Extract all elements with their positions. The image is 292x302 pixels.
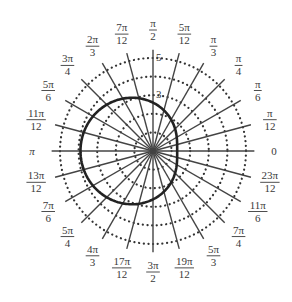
fraction-numerator: 7π [116,21,128,33]
angle-label-240: 4π3 [86,243,100,268]
fraction-denominator: 12 [179,34,190,46]
fraction-numerator: 7π [43,199,55,211]
angle-label-text: π [29,145,35,157]
fraction-numerator: 2π [87,33,99,45]
fraction-numerator: 13π [28,169,45,181]
fraction-numerator: 7π [233,224,245,236]
fraction-denominator: 4 [65,65,71,77]
fraction-denominator: 6 [255,91,261,103]
fraction-numerator: 5π [43,78,55,90]
angle-label-315: 7π4 [232,224,246,249]
fraction-numerator: 11π [250,199,267,211]
fraction-numerator: π [211,33,217,45]
fraction-numerator: 3π [147,259,159,271]
fraction-denominator: 12 [31,182,42,194]
fraction-numerator: 3π [62,52,74,64]
fraction-denominator: 12 [116,268,127,280]
fraction-numerator: 5π [62,224,74,236]
fraction-denominator: 3 [211,46,217,58]
angle-label-90: π2 [149,17,157,42]
angle-label-210: 7π6 [41,199,55,224]
angle-label-225: 5π4 [61,224,75,249]
spoke-15 [153,125,251,151]
fraction-numerator: 5π [208,243,220,255]
angle-label-75: 5π12 [178,21,192,46]
fraction-numerator: 5π [179,21,191,33]
angle-label-30: π6 [254,78,262,103]
fraction-denominator: 6 [45,212,51,224]
fraction-denominator: 12 [31,120,42,132]
spoke-75 [153,53,179,151]
spoke-195 [55,151,153,177]
spoke-345 [153,151,251,177]
fraction-denominator: 6 [255,212,261,224]
fraction-denominator: 12 [116,34,127,46]
angle-label-text: 0 [271,145,277,157]
fraction-denominator: 4 [236,65,242,77]
fraction-numerator: π [267,107,273,119]
fraction-numerator: π [236,52,242,64]
angle-label-255: 17π12 [112,255,131,280]
angle-label-180: π [29,145,35,157]
angle-label-0: 0 [271,145,277,157]
fraction-numerator: 19π [176,255,193,267]
angle-label-135: 3π4 [61,52,75,77]
angle-label-45: π4 [235,52,243,77]
angle-label-270: 3π2 [146,259,160,284]
angle-label-15: π12 [263,107,277,132]
fraction-numerator: 11π [28,107,45,119]
spoke-165 [55,125,153,151]
fraction-denominator: 3 [211,256,217,268]
radial-grid-lines [52,50,255,253]
fraction-denominator: 12 [264,120,275,132]
spoke-285 [153,151,179,249]
radial-label-3: 3 [156,88,162,100]
angle-label-60: π3 [210,33,218,58]
fraction-denominator: 2 [150,272,156,284]
fraction-denominator: 6 [45,91,51,103]
fraction-denominator: 2 [150,30,156,42]
angle-label-120: 2π3 [86,33,100,58]
angle-label-150: 5π6 [41,78,55,103]
angle-label-285: 19π12 [175,255,194,280]
angle-label-345: 23π12 [260,169,279,194]
fraction-denominator: 4 [65,237,71,249]
angle-label-105: 7π12 [115,21,129,46]
fraction-denominator: 3 [90,46,96,58]
angle-label-195: 13π12 [26,169,45,194]
fraction-numerator: 4π [87,243,99,255]
radial-tick-labels: 35 [156,51,162,100]
polar-chart: 35 0π12π6π4π35π12π27π122π33π45π611π12π13… [0,0,292,302]
angle-label-300: 5π3 [207,243,221,268]
angle-label-165: 11π12 [26,107,45,132]
fraction-denominator: 12 [179,268,190,280]
fraction-numerator: 17π [113,255,130,267]
fraction-denominator: 12 [264,182,275,194]
fraction-denominator: 3 [90,256,96,268]
fraction-denominator: 4 [236,237,242,249]
fraction-numerator: π [150,17,156,29]
angle-label-330: 11π6 [248,199,267,224]
radial-label-5: 5 [156,51,162,63]
fraction-numerator: 23π [262,169,279,181]
fraction-numerator: π [255,78,261,90]
